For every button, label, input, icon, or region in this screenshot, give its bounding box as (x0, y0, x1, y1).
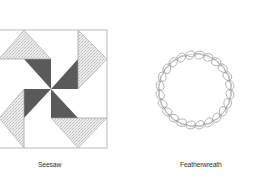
seesaw-figure: Seesaw (0, 0, 130, 179)
featherwreath-figure: Featherwreath (130, 0, 259, 179)
featherwreath-icon (130, 0, 259, 179)
seesaw-caption: Seesaw (38, 160, 61, 169)
featherwreath-caption: Featherwreath (180, 160, 222, 169)
seesaw-block-icon (0, 0, 130, 179)
